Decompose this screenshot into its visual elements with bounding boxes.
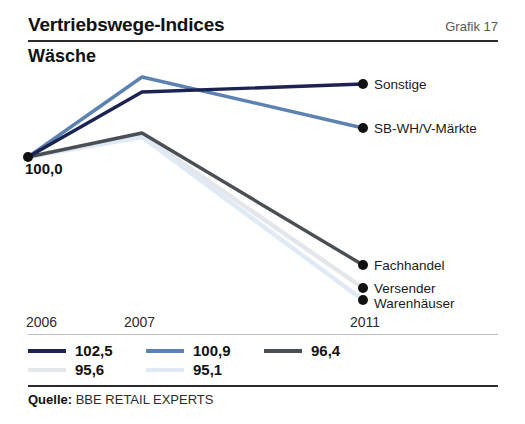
axis-divider <box>28 334 498 335</box>
series-label-sonstige: Sonstige <box>374 77 427 92</box>
legend-swatch-fachhandel <box>264 349 302 353</box>
legend-value-sonstige: 102,5 <box>75 342 113 359</box>
xaxis-tick-2007: 2007 <box>124 314 155 330</box>
legend-item-sonstige: 102,5 <box>28 342 146 359</box>
series-label-sb-wh-v-maerkte: SB-WH/V-Märkte <box>374 121 477 136</box>
legend-item-sb-wh-v-maerkte: 100,9 <box>146 342 264 359</box>
footer-divider <box>28 385 498 387</box>
header-divider <box>28 40 498 42</box>
legend-swatch-warenhaeuser <box>146 368 184 372</box>
legend-row-bottom: 95,6 95,1 <box>28 360 498 379</box>
series-line-sb-wh-v-maerkte <box>28 77 363 157</box>
legend-swatch-sonstige <box>28 349 66 353</box>
series-line-warenhaeuser <box>28 137 363 300</box>
source-value: BBE RETAIL EXPERTS <box>76 392 214 407</box>
data-point-warenhaeuser <box>358 295 368 305</box>
chart-legend: 102,5 100,9 96,4 95,6 95,1 <box>28 341 498 379</box>
legend-item-warenhaeuser: 95,1 <box>146 361 264 378</box>
legend-swatch-versender <box>28 368 66 372</box>
series-label-versender: Versender <box>374 281 436 296</box>
legend-value-sb-wh-v-maerkte: 100,9 <box>193 342 231 359</box>
legend-row-top: 102,5 100,9 96,4 <box>28 341 498 360</box>
series-line-versender <box>28 135 363 288</box>
chart-subtitle: Wäsche <box>28 46 96 67</box>
xaxis-tick-2011: 2011 <box>350 314 380 330</box>
source-label: Quelle: <box>28 392 72 407</box>
series-line-sonstige <box>28 84 363 157</box>
data-point-sb-wh-v-maerkte <box>358 123 368 133</box>
page-title: Vertriebswege-Indices <box>28 14 224 36</box>
legend-value-warenhaeuser: 95,1 <box>193 361 222 378</box>
figure-number: Grafik 17 <box>445 19 498 34</box>
series-label-warenhaeuser: Warenhäuser <box>374 296 455 311</box>
series-label-fachhandel: Fachhandel <box>374 258 445 273</box>
chart-header: Vertriebswege-Indices Grafik 17 <box>28 14 498 36</box>
legend-item-versender: 95,6 <box>28 361 146 378</box>
data-point-versender <box>358 283 368 293</box>
legend-swatch-sb-wh-v-maerkte <box>146 349 184 353</box>
legend-value-versender: 95,6 <box>75 361 104 378</box>
xaxis-tick-2006: 2006 <box>26 314 57 330</box>
data-point-sonstige <box>358 79 368 89</box>
series-line-fachhandel <box>28 133 363 265</box>
data-point-fachhandel <box>358 260 368 270</box>
legend-item-fachhandel: 96,4 <box>264 342 382 359</box>
base-value-label: 100,0 <box>25 160 63 177</box>
source-line: Quelle: BBE RETAIL EXPERTS <box>28 392 213 407</box>
chart-page: Vertriebswege-Indices Grafik 17 Wäsche 1… <box>0 0 525 424</box>
legend-value-fachhandel: 96,4 <box>311 342 340 359</box>
